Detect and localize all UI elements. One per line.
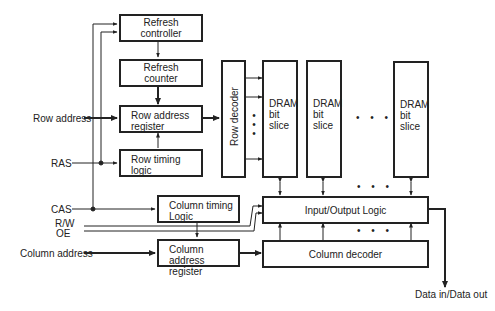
oe-label: OE (56, 228, 70, 239)
bit-slice-line2: bit (400, 110, 411, 121)
refresh-counter-line1: Refresh (143, 62, 178, 73)
row-decoder-block: Row decoder (221, 60, 246, 178)
column-address-label: Column address (20, 248, 93, 259)
refresh-controller-line2: controller (140, 28, 181, 39)
io-logic-block: Input/Output Logic (262, 196, 429, 224)
row-timing-logic-line1: Row timing (131, 154, 180, 165)
io-logic-label: Input/Output Logic (305, 205, 387, 216)
ras-label: RAS (51, 158, 72, 169)
refresh-counter-block: Refreshcounter (119, 59, 203, 87)
column-decoder-block: Column decoder (262, 240, 429, 268)
bit-slice-line3: slice (269, 120, 289, 131)
row-address-register-line2: register (131, 121, 164, 132)
bit-slice-ellipsis: • • • (356, 112, 392, 123)
dram-bit-slice-2: DRAMbitslice (306, 60, 342, 178)
bit-slice-line1: DRAM (313, 98, 342, 109)
row-decoder-label: Row decoder (229, 84, 240, 150)
refresh-counter-line2: counter (144, 73, 177, 84)
column-address-register-block: Column addressregister (157, 239, 240, 267)
column-address-register-line2: register (169, 266, 202, 277)
row-timing-logic-block: Row timinglogic (119, 149, 203, 177)
bit-slice-line1: DRAM (269, 98, 298, 109)
bit-slice-line1: DRAM (400, 99, 429, 110)
row-address-label: Row address (33, 113, 91, 124)
row-address-register-line1: Row address (131, 110, 189, 121)
io-bottom-ellipsis: • • • (357, 225, 393, 236)
dram-bit-slice-1: DRAMbitslice (262, 60, 298, 178)
bit-slice-line2: bit (313, 109, 324, 120)
io-top-ellipsis: • • • (357, 181, 393, 192)
column-timing-line2: Logic (169, 211, 193, 222)
data-in-out-label: Data in/Data out (415, 289, 487, 300)
bit-slice-line2: bit (269, 109, 280, 120)
cas-label: CAS (51, 204, 72, 215)
column-decoder-label: Column decoder (309, 249, 382, 260)
dram-bit-slice-n: DRAMbitslice (393, 61, 429, 178)
refresh-controller-line1: Refresh (143, 17, 178, 28)
row-timing-logic-line2: logic (131, 165, 152, 176)
row-decoder-vertical-ellipsis: ••• (251, 111, 257, 138)
column-timing-line1: Column timing (169, 200, 233, 211)
bit-slice-line3: slice (313, 120, 333, 131)
row-address-register-block: Row addressregister (119, 105, 203, 133)
column-timing-logic-block: Column timingLogic (157, 195, 240, 223)
column-address-register-line1: Column address (169, 244, 205, 266)
refresh-controller-block: Refreshcontroller (119, 14, 203, 42)
bit-slice-line3: slice (400, 121, 420, 132)
